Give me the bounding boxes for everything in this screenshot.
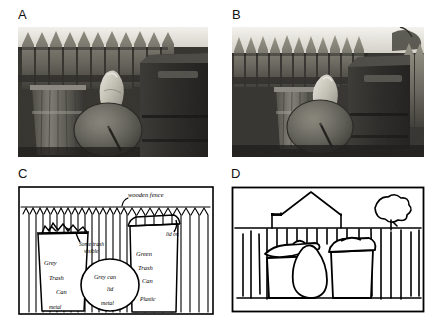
photograph-panel-b	[232, 27, 424, 157]
photo-a-graphic	[18, 27, 208, 157]
annotation-lid-3: metal	[101, 300, 114, 306]
annotation-grey-2: Trash	[49, 274, 64, 281]
annotation-grey-3: Can	[56, 288, 67, 295]
annotation-lid-1: Grey can	[94, 274, 116, 280]
sketch-c-graphic: wooden fence Some trash visible Grey Tra…	[18, 186, 214, 315]
annotation-some-trash-2: visible	[84, 248, 99, 254]
annotation-plastic: Plastic	[139, 296, 156, 302]
annotation-green-1: Green	[136, 250, 152, 257]
annotation-lid-2: lid	[107, 286, 114, 292]
annotation-lid-on: lid on	[166, 231, 179, 237]
annotation-metal-left: metal	[49, 304, 62, 310]
annotation-grey-1: Grey	[44, 259, 57, 266]
line-drawing-panel-d	[231, 186, 425, 313]
panel-letter-c: C	[18, 167, 27, 180]
annotation-some-trash-1: Some trash	[79, 241, 104, 247]
panel-letter-b: B	[232, 8, 241, 21]
panel-letter-d: D	[231, 167, 240, 180]
photograph-panel-a	[18, 27, 208, 157]
annotation-wooden-fence: wooden fence	[128, 191, 164, 198]
figure-panel-grid: A	[0, 0, 440, 331]
annotation-green-3: Can	[142, 277, 153, 284]
photo-b-graphic	[232, 27, 424, 157]
panel-letter-a: A	[18, 8, 27, 21]
line-drawing-panel-c: wooden fence Some trash visible Grey Tra…	[18, 186, 214, 315]
sketch-d-graphic	[231, 186, 425, 313]
annotation-green-2: Trash	[138, 264, 153, 271]
